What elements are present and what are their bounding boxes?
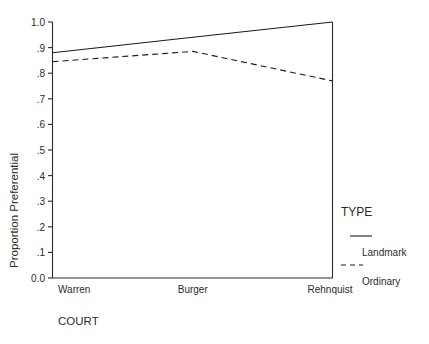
y-tick-label-10: 1.0 bbox=[31, 17, 45, 28]
y-tick-label-0: 0.0 bbox=[31, 273, 45, 284]
legend: TYPE Landmark Ordinary bbox=[341, 205, 407, 287]
legend-label-landmark: Landmark bbox=[362, 247, 407, 258]
series-line-landmark bbox=[53, 22, 333, 53]
y-tick-label-7: .7 bbox=[37, 94, 46, 105]
y-tick-label-3: .3 bbox=[37, 196, 46, 207]
legend-title: TYPE bbox=[341, 205, 372, 219]
y-tick-label-2: .2 bbox=[37, 222, 46, 233]
series-line-ordinary bbox=[53, 51, 333, 81]
y-tick-label-4: .4 bbox=[37, 171, 46, 182]
y-axis-title: Proportion Preferential bbox=[8, 153, 20, 268]
y-tick-label-9: .9 bbox=[37, 43, 46, 54]
x-tick-label-warren: Warren bbox=[58, 284, 90, 295]
x-tick-label-rehnquist: Rehnquist bbox=[307, 284, 352, 295]
chart-page: 1.0 .9 .8 .7 .6 .5 .4 .3 .2 .1 0.0 Warre… bbox=[0, 0, 429, 344]
line-chart: 1.0 .9 .8 .7 .6 .5 .4 .3 .2 .1 0.0 Warre… bbox=[0, 0, 429, 344]
y-tick-label-6: .6 bbox=[37, 119, 46, 130]
y-tick-label-5: .5 bbox=[37, 145, 46, 156]
y-tick-marks bbox=[48, 22, 53, 278]
legend-label-ordinary: Ordinary bbox=[362, 276, 400, 287]
x-axis-title: COURT bbox=[58, 315, 99, 327]
y-tick-label-8: .8 bbox=[37, 68, 46, 79]
x-tick-label-burger: Burger bbox=[178, 284, 209, 295]
y-tick-label-1: .1 bbox=[37, 247, 46, 258]
